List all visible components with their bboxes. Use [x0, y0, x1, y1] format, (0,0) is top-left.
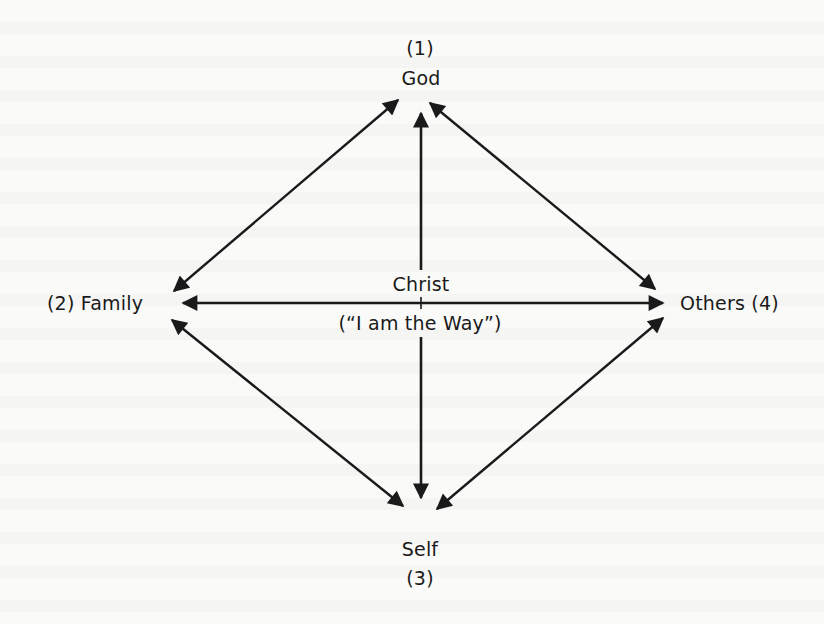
edge-family-self	[172, 320, 403, 506]
node-christ-label: Christ	[393, 273, 450, 295]
node-god-number: (1)	[406, 37, 434, 59]
edge-god-others	[430, 103, 655, 289]
edge-god-family	[174, 100, 398, 291]
node-family-label: (2) Family	[47, 292, 143, 314]
edge-others-self	[437, 318, 663, 509]
node-self-label: Self	[402, 538, 439, 560]
node-self-number: (3)	[406, 567, 434, 589]
node-others-label: Others (4)	[680, 292, 779, 314]
node-god-label: God	[401, 67, 440, 89]
node-christ-quote: (“I am the Way”)	[338, 312, 501, 334]
